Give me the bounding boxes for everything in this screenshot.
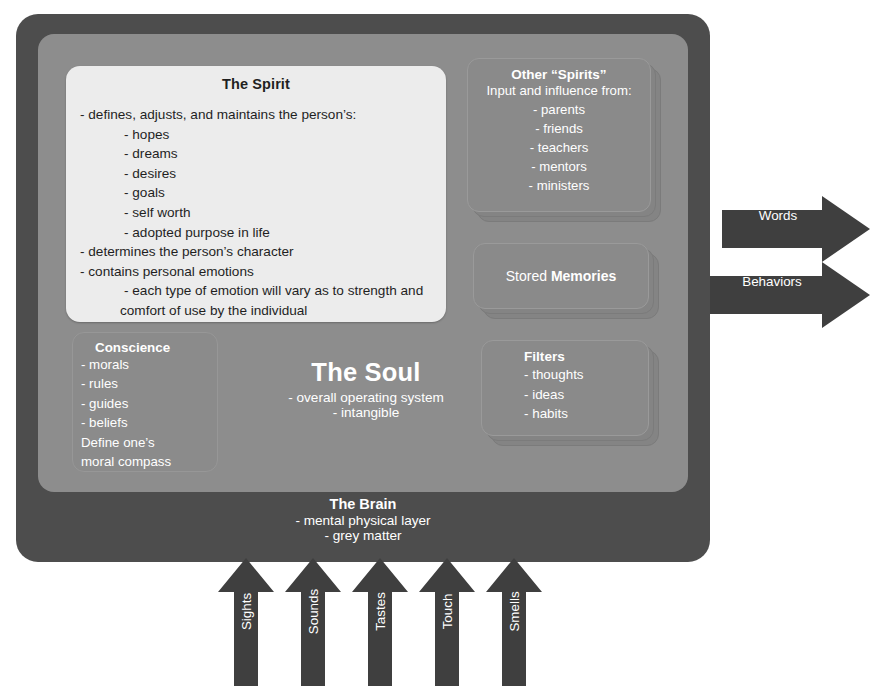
output-arrow-words: Words <box>722 196 870 262</box>
other-spirits-face: Other “Spirits” Input and influence from… <box>467 58 651 212</box>
spirit-line: - self worth <box>124 203 446 223</box>
spirit-card: The Spirit - defines, adjusts, and maint… <box>66 66 446 322</box>
spirit-body: - defines, adjusts, and maintains the pe… <box>80 105 446 321</box>
filters-item: - ideas <box>524 385 648 405</box>
soul-label-group: The Soul - overall operating system - in… <box>258 358 474 420</box>
spirit-line: - determines the person’s character <box>80 242 446 262</box>
right-arrow-icon <box>710 262 870 328</box>
brain-subtitle-1: - mental physical layer <box>38 513 688 528</box>
other-spirits-item: - ministers <box>468 176 650 195</box>
brain-subtitle-2: - grey matter <box>38 528 688 543</box>
conscience-list: - morals- rules- guides- beliefs <box>81 355 217 433</box>
conscience-item: - guides <box>81 394 217 413</box>
filters-face: Filters - thoughts- ideas- habits <box>481 340 649 436</box>
filters-item: - habits <box>524 404 648 424</box>
sense-arrow-label: Smells <box>507 591 522 631</box>
spirit-title: The Spirit <box>66 76 446 92</box>
stored-memories-card: Stored Memories <box>473 243 655 315</box>
right-arrow-icon <box>722 196 870 262</box>
other-spirits-list: - parents- friends- teachers- mentors- m… <box>468 100 650 195</box>
spirit-line: - adopted purpose in life <box>124 223 446 243</box>
filters-card: Filters - thoughts- ideas- habits <box>481 340 655 442</box>
conscience-item: - morals <box>81 355 217 374</box>
output-arrow-behaviors: Behaviors <box>710 262 870 328</box>
soul-title: The Soul <box>258 358 474 387</box>
output-arrow-words-label: Words <box>722 208 834 223</box>
sense-arrow-tastes: Tastes <box>352 558 408 686</box>
conscience-item: - beliefs <box>81 413 217 432</box>
filters-list: - thoughts- ideas- habits <box>524 365 648 424</box>
sense-arrow-smells: Smells <box>486 558 542 686</box>
sense-arrow-sounds: Sounds <box>285 558 341 686</box>
stored-memories-emphasis: Memories <box>551 268 616 284</box>
conscience-title: Conscience <box>95 340 217 355</box>
conscience-card: Conscience - morals- rules- guides- beli… <box>72 332 218 472</box>
conscience-footer-line: Define one’s <box>81 433 217 452</box>
spirit-line: - contains personal emotions <box>80 262 446 282</box>
stored-memories-prefix: Stored <box>506 268 551 284</box>
other-spirits-title: Other “Spirits” <box>468 67 650 82</box>
filters-title: Filters <box>524 349 648 364</box>
other-spirits-subtitle: Input and influence from: <box>468 83 650 98</box>
conscience-footer-line: moral compass <box>81 452 217 471</box>
output-arrow-behaviors-label: Behaviors <box>710 274 834 289</box>
other-spirits-item: - parents <box>468 100 650 119</box>
sense-arrow-touch: Touch <box>419 558 475 686</box>
sense-arrow-label: Sounds <box>306 589 321 634</box>
filters-item: - thoughts <box>524 365 648 385</box>
sense-arrow-label: Sights <box>239 593 254 630</box>
other-spirits-card: Other “Spirits” Input and influence from… <box>467 58 657 218</box>
spirit-line: - hopes <box>124 125 446 145</box>
spirit-line: - each type of emotion will vary as to s… <box>124 281 446 301</box>
spirit-line: - dreams <box>124 144 446 164</box>
spirit-line: - desires <box>124 164 446 184</box>
soul-subtitle-1: - overall operating system <box>258 390 474 405</box>
spirit-line: - defines, adjusts, and maintains the pe… <box>80 105 446 125</box>
other-spirits-item: - teachers <box>468 138 650 157</box>
conscience-item: - rules <box>81 374 217 393</box>
spirit-line: - goals <box>124 183 446 203</box>
stored-memories-label: Stored Memories <box>506 268 617 284</box>
sense-input-arrows: SightsSoundsTastesTouchSmells <box>218 558 548 688</box>
conscience-footer: Define one’smoral compass <box>81 433 217 472</box>
brain-title: The Brain <box>38 492 688 512</box>
spirit-line: comfort of use by the individual <box>120 301 446 321</box>
sense-arrow-label: Tastes <box>373 592 388 631</box>
other-spirits-item: - mentors <box>468 157 650 176</box>
sense-arrow-sights: Sights <box>218 558 274 686</box>
sense-arrow-label: Touch <box>440 594 455 630</box>
brain-band: The Brain - mental physical layer - grey… <box>38 492 688 554</box>
stored-memories-face: Stored Memories <box>473 243 649 309</box>
other-spirits-item: - friends <box>468 119 650 138</box>
soul-subtitle-2: - intangible <box>258 405 474 420</box>
